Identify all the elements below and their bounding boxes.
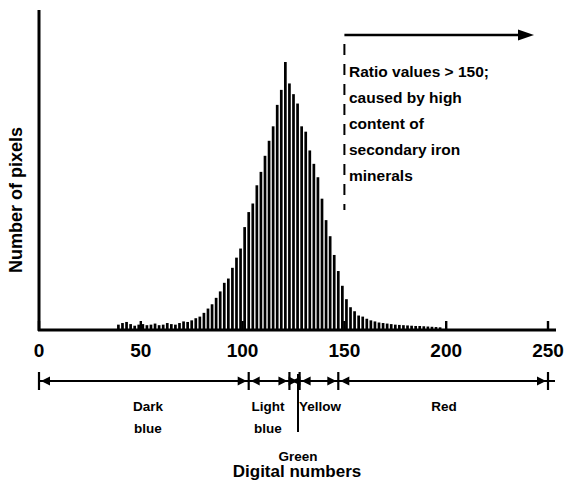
histogram-bar [349,307,352,330]
histogram-bar [182,321,185,330]
histogram-bar [361,317,364,330]
band-label: blue [254,421,282,436]
histogram-bar [174,325,177,330]
histogram-bar [154,324,157,330]
histogram-bar [243,227,246,330]
histogram-bar [337,271,340,330]
histogram-bar [133,326,136,330]
histogram-bar [329,236,332,330]
histogram-bar [117,325,120,330]
histogram-bar [374,321,377,330]
histogram-bar [321,199,324,330]
histogram-bar [223,283,226,330]
histogram-bar [292,94,295,330]
x-tick-label: 100 [227,340,259,361]
histogram-bar [235,258,238,330]
annotation-line: content of [349,115,425,132]
histogram-bar [406,325,409,330]
histogram-bar [435,327,438,330]
histogram-figure: 050100150200250 Ratio values > 150;cause… [0,0,565,491]
histogram-bar [219,291,222,330]
x-tick-label: 150 [329,340,361,361]
histogram-bar [260,172,263,330]
histogram-bar [178,323,181,330]
histogram-bar [121,323,124,330]
histogram-bar [207,309,210,330]
histogram-bar [190,320,193,330]
histogram-bar [398,325,401,330]
histogram-bar [402,325,405,330]
histogram-bar [272,126,275,330]
annotation-line: secondary iron [349,141,460,158]
histogram-bar [215,298,218,330]
histogram-bar [333,255,336,330]
histogram-bar [150,325,153,330]
histogram-bar [410,326,413,330]
histogram-bar [414,326,417,330]
annotation-line: Ratio values > 150; [349,63,489,80]
annotation-line: minerals [349,167,413,184]
histogram-bar [146,325,149,330]
histogram-bar [256,185,259,330]
histogram-bar [247,212,250,330]
band-label: Yellow [299,399,342,414]
x-tick-label: 250 [532,340,564,361]
histogram-bar [203,313,206,330]
histogram-bar [296,104,299,330]
histogram-bar [211,304,214,330]
histogram-bar [198,317,201,330]
histogram-bar [194,318,197,330]
histogram-bar [439,327,442,330]
band-label: Light [252,399,285,414]
histogram-bar [129,324,132,330]
histogram-bar [280,90,283,330]
histogram-bar [125,322,128,330]
histogram-bar [288,83,291,330]
histogram-bar [166,323,169,330]
histogram-bar [170,324,173,330]
band-label: Red [431,399,457,414]
annotation-line: caused by high [349,89,462,106]
histogram-bar [422,326,425,330]
histogram-bar [186,322,189,330]
histogram-bar [317,177,320,330]
histogram-bar [276,105,279,330]
histogram-bar [325,220,328,330]
histogram-bar [158,325,161,330]
histogram-bar [300,126,303,330]
x-axis-title: Digital numbers [233,462,361,481]
histogram-bar [370,320,373,330]
x-tick-label: 0 [34,340,45,361]
histogram-bar [251,204,254,331]
histogram-bar [431,327,434,330]
histogram-bar [427,327,430,330]
histogram-bar [394,325,397,330]
histogram-bar [365,319,368,330]
histogram-bar [264,156,267,330]
histogram-bar [378,323,381,331]
histogram-bar [284,62,287,330]
histogram-bar [268,141,271,330]
x-tick-label: 200 [430,340,462,361]
histogram-bar [382,323,385,330]
histogram-bar [231,268,234,330]
histogram-bar [313,164,316,330]
histogram-bar [239,249,242,330]
histogram-bar [418,326,421,330]
histogram-bar [390,324,393,330]
histogram-bar [227,279,230,330]
band-label: Dark [133,399,164,414]
histogram-bar [162,325,165,330]
y-axis-title: Number of pixels [6,127,26,273]
histogram-bar [304,132,307,330]
histogram-bar [308,150,311,330]
histogram-bar [353,311,356,330]
band-label: blue [134,421,162,436]
histogram-bar [386,324,389,330]
histogram-bar [357,316,360,330]
x-tick-label: 50 [130,340,151,361]
